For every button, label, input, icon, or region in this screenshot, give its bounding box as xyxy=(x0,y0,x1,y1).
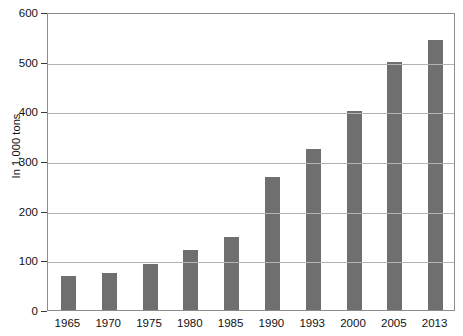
bar xyxy=(387,62,402,310)
bar xyxy=(347,111,362,310)
bar-series xyxy=(48,14,454,310)
y-axis-tick-label: 500 xyxy=(0,57,38,69)
y-axis-tick-mark xyxy=(41,311,47,312)
bar xyxy=(102,273,117,310)
bar xyxy=(183,250,198,310)
x-axis-tick-label: 2005 xyxy=(381,317,407,329)
x-axis-tick-label: 1985 xyxy=(218,317,244,329)
y-axis-tick-label: 600 xyxy=(0,7,38,19)
y-axis-tick-label: 100 xyxy=(0,255,38,267)
bar xyxy=(306,149,321,310)
x-axis-tick-label: 1975 xyxy=(136,317,162,329)
bar xyxy=(265,177,280,310)
x-axis-tick-label: 1965 xyxy=(55,317,81,329)
gridline xyxy=(48,262,454,263)
bar-chart: In 1,000 tons 0100200300400500600 196519… xyxy=(0,0,463,336)
x-axis-tick-labels: 1965197019751980198519901993200020052013 xyxy=(47,313,455,335)
x-axis-tick-label: 1990 xyxy=(259,317,285,329)
y-axis-tick-label: 200 xyxy=(0,206,38,218)
x-axis-tick-label: 1970 xyxy=(95,317,121,329)
x-axis-tick-label: 1980 xyxy=(177,317,203,329)
gridline xyxy=(48,113,454,114)
bar xyxy=(61,276,76,310)
y-axis-tick-label: 300 xyxy=(0,156,38,168)
bar xyxy=(428,40,443,310)
x-axis-tick-label: 1993 xyxy=(299,317,325,329)
gridline xyxy=(48,64,454,65)
x-axis-tick-label: 2013 xyxy=(422,317,448,329)
plot-area xyxy=(47,13,455,311)
y-axis-tick-label: 400 xyxy=(0,106,38,118)
bar xyxy=(224,237,239,311)
bar xyxy=(143,264,158,310)
x-axis-tick-label: 2000 xyxy=(340,317,366,329)
gridline xyxy=(48,213,454,214)
gridline xyxy=(48,163,454,164)
y-axis-tick-labels: 0100200300400500600 xyxy=(0,0,38,336)
y-axis-tick-label: 0 xyxy=(0,305,38,317)
